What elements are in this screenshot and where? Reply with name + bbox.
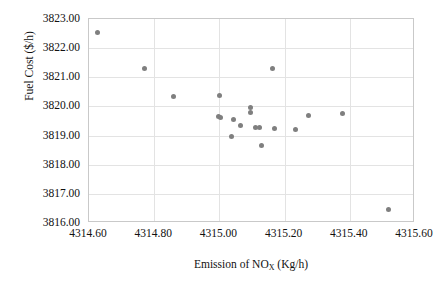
y-tick-label: 3823.00 [0, 12, 84, 24]
data-point [142, 66, 147, 71]
data-point [272, 126, 277, 131]
gridline-vertical [350, 19, 351, 221]
y-tick-label: 3818.00 [0, 158, 84, 170]
gridline-horizontal [89, 136, 413, 137]
gridline-horizontal [89, 165, 413, 166]
data-point [270, 66, 275, 71]
plot-area [88, 18, 414, 222]
gridline-vertical [154, 19, 155, 221]
data-point [218, 115, 223, 120]
gridline-horizontal [89, 194, 413, 195]
data-point [386, 207, 391, 212]
data-point [229, 134, 234, 139]
data-point [231, 117, 236, 122]
x-axis-title-post: (Kg/h) [274, 258, 308, 270]
data-point [257, 125, 262, 130]
gridline-vertical [219, 19, 220, 221]
gridline-vertical [285, 19, 286, 221]
y-tick-label: 3821.00 [0, 70, 84, 82]
y-tick-label: 3819.00 [0, 129, 84, 141]
data-point [340, 111, 345, 116]
data-point [248, 105, 253, 110]
data-point [248, 110, 253, 115]
data-point [259, 143, 264, 148]
x-axis-title-pre: Emission of NO [194, 258, 269, 270]
x-axis-title: Emission of NOX (Kg/h) [88, 258, 414, 272]
data-point [293, 127, 298, 132]
y-tick-label: 3820.00 [0, 99, 84, 111]
data-point [306, 113, 311, 118]
data-point [171, 94, 176, 99]
gridline-horizontal [89, 48, 413, 49]
y-tick-label: 3822.00 [0, 41, 84, 53]
data-point [217, 93, 222, 98]
data-point [238, 123, 243, 128]
gridline-horizontal [89, 77, 413, 78]
data-point [95, 30, 100, 35]
x-tick-label: 4315.60 [374, 226, 433, 240]
scatter-chart: Fuel Cost ($/h) Emission of NOX (Kg/h) 3… [0, 0, 433, 286]
y-tick-label: 3817.00 [0, 187, 84, 199]
